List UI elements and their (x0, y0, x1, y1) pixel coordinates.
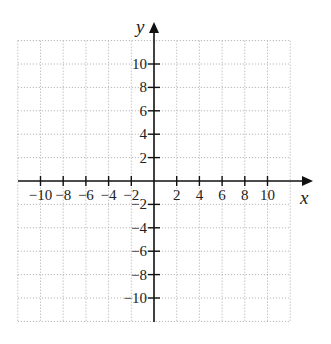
y-tick-label: 6 (140, 103, 148, 119)
y-tick-label: 4 (140, 126, 148, 142)
x-tick-label: 6 (218, 187, 226, 203)
y-tick-label: −2 (131, 196, 147, 212)
x-tick-label: −6 (78, 187, 94, 203)
y-axis-arrow-icon (149, 22, 159, 33)
x-tick-label: 8 (241, 187, 249, 203)
y-tick-label: −10 (124, 290, 147, 306)
x-tick-label: 2 (173, 187, 181, 203)
y-tick-label: −4 (131, 220, 147, 236)
y-tick-label: −8 (131, 267, 147, 283)
y-axis-label: y (134, 16, 145, 37)
x-tick-label: −10 (29, 187, 52, 203)
y-tick-label: 8 (140, 79, 148, 95)
y-tick-label: 2 (140, 150, 148, 166)
x-tick-label: −4 (101, 187, 117, 203)
x-tick-label: 4 (196, 187, 204, 203)
x-axis-arrow-icon (302, 176, 313, 186)
y-tick-label: −6 (131, 243, 147, 259)
x-tick-label: −8 (55, 187, 71, 203)
y-tick-label: 10 (132, 56, 147, 72)
coordinate-plane: −10−8−6−4−2246810−10−8−6−4−2246810 x y (0, 0, 331, 344)
axes (18, 22, 313, 322)
x-tick-label: 10 (260, 187, 275, 203)
x-axis-label: x (299, 187, 309, 208)
